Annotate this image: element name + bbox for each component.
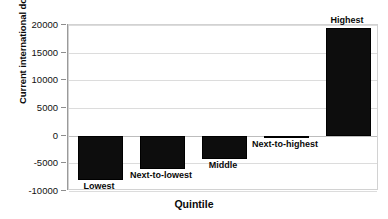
y-axis-tick-labels: 20000150001000050000-5000-10000 <box>0 0 68 219</box>
bar <box>264 136 309 138</box>
y-tick-mark <box>61 162 66 163</box>
category-label: Next-to-lowest <box>130 170 192 180</box>
bar <box>140 136 185 169</box>
y-tick-label: 15000 <box>32 46 58 57</box>
bar <box>326 28 371 135</box>
y-tick-label: 20000 <box>32 19 58 30</box>
y-tick-mark <box>61 24 66 25</box>
category-label: Next-to-highest <box>252 139 318 149</box>
gridline <box>69 191 377 192</box>
y-tick-mark <box>61 52 66 53</box>
bar <box>78 136 123 180</box>
y-tick-mark <box>61 135 66 136</box>
y-tick-label: 0 <box>53 129 58 140</box>
category-label: Lowest <box>83 181 114 191</box>
y-tick-label: -5000 <box>34 157 58 168</box>
category-label: Middle <box>209 160 238 170</box>
y-tick-label: 10000 <box>32 74 58 85</box>
bar <box>202 136 247 160</box>
y-tick-mark <box>61 107 66 108</box>
x-axis-title: Quintile <box>0 198 388 210</box>
bar-chart: Current international dollars 2000015000… <box>0 0 388 219</box>
y-tick-label: 5000 <box>37 102 58 113</box>
y-tick-mark <box>61 190 66 191</box>
y-tick-mark <box>61 79 66 80</box>
category-label: Highest <box>330 15 363 25</box>
y-tick-label: -10000 <box>28 185 58 196</box>
